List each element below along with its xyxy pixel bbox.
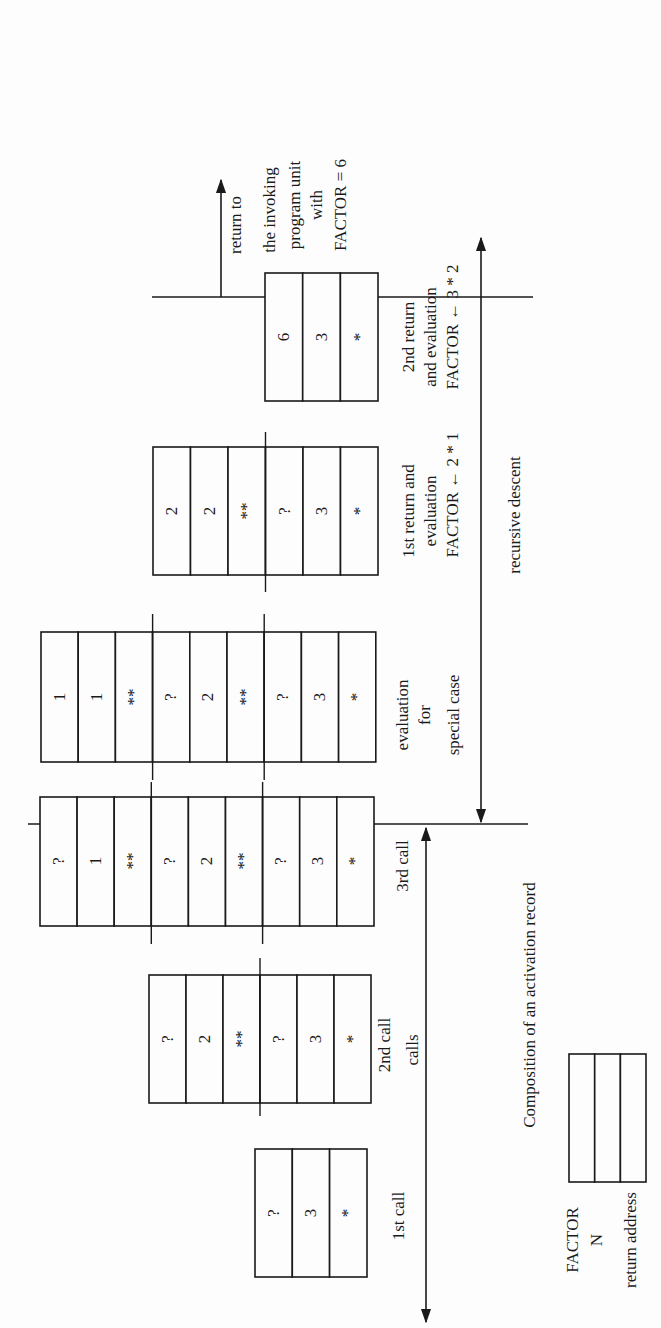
stage-label: 2nd return [399, 301, 418, 372]
cell-factor: 6 [274, 333, 293, 342]
return-note-line-4: with [307, 189, 326, 220]
cell-n: 2 [197, 857, 216, 866]
stage-special-case: 1 1 ** ? 2 ** ? 3 * evaluation for speci… [41, 614, 463, 780]
cell-return-address: ** [234, 853, 253, 870]
cell-return-address: ** [123, 853, 142, 870]
cell-factor: ? [271, 857, 290, 865]
cell-n: 2 [195, 1035, 214, 1044]
stage-label: and evaluation [421, 287, 440, 387]
cell-factor: ? [161, 693, 180, 701]
stage-label: 1st return and [399, 464, 418, 558]
cell-factor: ? [275, 507, 294, 515]
stage-label: 3rd call [393, 840, 412, 892]
return-note-line-3: program unit [285, 161, 304, 250]
cell-n: 3 [312, 507, 331, 516]
cell-n: 1 [87, 693, 106, 702]
return-note-line-5: FACTOR = 6 [331, 159, 350, 251]
cell-return-address: * [350, 333, 369, 342]
recursive-descent-label: recursive descent [505, 456, 524, 574]
cell-factor: ? [158, 1035, 177, 1043]
cell-return-address: ** [124, 689, 143, 706]
stage-2nd-call: ? 2 ** ? 3 * 2nd call [149, 958, 394, 1116]
cell-n: 2 [200, 507, 219, 516]
cell-return-address: * [347, 693, 366, 702]
cell-n: 2 [198, 693, 217, 702]
activation-record-diagram: return to the invoking program unit with… [0, 0, 661, 1328]
legend-title: Composition of an activation record [520, 882, 539, 1128]
stage-label: special case [444, 675, 463, 756]
cell-n: 1 [86, 857, 105, 866]
cell-return-address: * [345, 857, 364, 866]
stage-label: FACTOR ← 2 * 1 [443, 432, 462, 557]
stage-2nd-return: 6 3 * 2nd return and evaluation FACTOR ←… [265, 264, 462, 401]
cell-return-address: * [343, 1035, 362, 1044]
calls-label: calls [403, 1034, 422, 1065]
cell-factor: 1 [50, 693, 69, 702]
return-note-line-2: the invoking [260, 167, 279, 253]
legend-field-n: N [587, 1234, 606, 1246]
cell-factor: ? [264, 1209, 283, 1217]
legend: Composition of an activation record FACT… [520, 882, 646, 1288]
legend-field-factor: FACTOR [563, 1207, 582, 1273]
cell-factor: ? [273, 693, 292, 701]
stage-label: FACTOR ← 3 * 2 [443, 264, 462, 389]
cell-factor: 2 [162, 507, 181, 516]
stage-label: evaluation [421, 475, 440, 546]
cell-factor: ? [49, 857, 68, 865]
cell-n: 3 [308, 857, 327, 866]
stage-1st-return: 2 2 ** ? 3 * 1st return and evaluation F… [153, 432, 462, 592]
stage-3rd-call: ? 1 ** ? 2 ** ? 3 * 3rd call [40, 782, 412, 944]
stage-label: for [415, 705, 434, 725]
cell-return-address: * [338, 1209, 357, 1218]
stage-label: evaluation [393, 679, 412, 750]
cell-return-address: * [350, 507, 369, 516]
cell-factor: ? [160, 857, 179, 865]
cell-return-address: ** [232, 1031, 251, 1048]
stage-label: 1st call [389, 1191, 408, 1240]
cell-n: 3 [301, 1209, 320, 1218]
cell-factor: ? [269, 1035, 288, 1043]
stage-1st-call: ? 3 * 1st call [255, 1149, 408, 1277]
legend-field-return-address: return address [621, 1192, 640, 1288]
cell-return-address: ** [236, 689, 255, 706]
cell-return-address: ** [237, 503, 256, 520]
cell-n: 3 [312, 333, 331, 342]
cell-n: 3 [310, 693, 329, 702]
return-note: return to [226, 196, 245, 254]
cell-n: 3 [306, 1035, 325, 1044]
stage-label: 2nd call [375, 1018, 394, 1073]
